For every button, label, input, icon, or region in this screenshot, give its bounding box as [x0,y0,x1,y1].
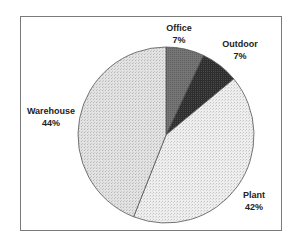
label-outdoor-pct: 7% [222,50,258,62]
label-plant-pct: 42% [243,201,265,213]
label-plant: Plant 42% [243,189,265,213]
label-warehouse-pct: 44% [27,117,75,129]
label-warehouse: Warehouse 44% [27,105,75,129]
label-outdoor: Outdoor 7% [222,38,258,62]
label-warehouse-name: Warehouse [27,105,75,117]
label-plant-name: Plant [243,189,265,201]
label-office: Office 7% [166,22,192,46]
label-office-pct: 7% [166,34,192,46]
label-outdoor-name: Outdoor [222,38,258,50]
label-office-name: Office [166,22,192,34]
